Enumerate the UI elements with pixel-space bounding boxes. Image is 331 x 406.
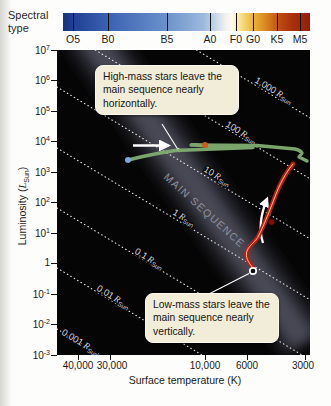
spectral-class-M5: M5 (293, 33, 308, 45)
x-tick-label: 3000 (279, 360, 327, 371)
page-gutter-shading (0, 0, 12, 406)
spectral-class-O5: O5 (66, 33, 80, 45)
hr-diagram-plot-area: 1,000RSun 100RSun 10RSun 1RSun 0.1RSun 0… (57, 50, 310, 355)
low-mass-mid-dot-red (268, 219, 274, 225)
radius-label-100rsun: 100RSun (223, 119, 259, 146)
spectral-type-colorbar (63, 13, 310, 31)
x-tick-label: 30,000 (88, 360, 136, 371)
radius-label-1000rsun: 1,000RSun (252, 75, 294, 106)
spectral-class-A0: A0 (204, 33, 217, 45)
y-tick-label: 10-3 (12, 349, 50, 361)
high-mass-start-dot-blue (125, 157, 131, 163)
hr-diagram-figure: Spectral type O5 B0 B5 A0 F0 G0 K5 M5 10… (0, 0, 331, 406)
colorbar-tick (210, 13, 211, 31)
colorbar-tick (253, 13, 254, 31)
spectral-class-B5: B5 (161, 33, 174, 45)
colorbar-tick (108, 13, 109, 31)
spectral-type-axis-title: Spectral type (8, 9, 48, 35)
colorbar-tick (300, 13, 301, 31)
high-mass-mid-dot-orange (202, 142, 208, 148)
high-mass-callout: High-mass stars leave the main sequence … (95, 65, 239, 115)
radius-label-0p001rsun: 0.001RSun (59, 327, 101, 355)
y-tick-label: 105 (12, 105, 50, 117)
spectral-class-B0: B0 (102, 33, 115, 45)
colorbar-tick (167, 13, 168, 31)
colorbar-tick (277, 13, 278, 31)
radius-label-0p1rsun: 0.1RSun (132, 246, 165, 272)
low-mass-start-open-circle (250, 268, 256, 274)
radius-label-0p01rsun: 0.01RSun (94, 283, 132, 312)
y-tick-label: 10-1 (12, 288, 50, 300)
y-axis-tick (51, 355, 57, 356)
spectral-class-G0: G0 (246, 33, 260, 45)
colorbar-tick (73, 13, 74, 31)
y-tick-label: 106 (12, 74, 50, 86)
low-mass-callout: Low-mass stars leave the main sequence n… (145, 293, 279, 343)
spectral-class-F0: F0 (230, 33, 242, 45)
y-tick-label: 107 (12, 44, 50, 56)
x-tick-label: 10,000 (181, 360, 229, 371)
colorbar-tick (236, 13, 237, 31)
x-axis-title: Surface temperature (K) (95, 374, 275, 386)
y-tick-label: 104 (12, 135, 50, 147)
spectral-class-K5: K5 (271, 33, 284, 45)
x-tick-label: 6000 (223, 360, 271, 371)
y-axis-title: Luminosity (LSun) (16, 150, 30, 262)
y-tick-label: 10-2 (12, 318, 50, 330)
